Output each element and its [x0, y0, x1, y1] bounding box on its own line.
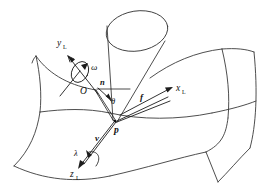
surface-upper-left-tip [32, 56, 36, 63]
label-angle-lambda: λ [73, 148, 78, 158]
label-angle-omega: ω [91, 62, 97, 72]
rotation-arcs [68, 59, 99, 166]
vectors [84, 88, 170, 164]
surface-right-fold [222, 49, 229, 118]
surface-bottom-notch-right [218, 148, 250, 182]
surface-mid-fold [40, 110, 110, 114]
vector-f-line2 [117, 101, 170, 122]
label-point-o: O [80, 86, 87, 96]
surface-top-far-right [222, 49, 254, 52]
point-p-marker [114, 120, 117, 123]
label-vector-f: f [140, 92, 144, 102]
label-axis-z-subscript: L [76, 175, 80, 181]
geometry-diagram: y L ω O n θ f x L p v λ z L [0, 0, 262, 194]
surface-bottom-edge [14, 166, 110, 180]
surface-right-silhouette [250, 52, 256, 148]
label-axis-y: y [56, 38, 62, 48]
label-point-p: p [113, 125, 119, 135]
surface-bottom-notch [206, 152, 218, 182]
label-axis-z: z [69, 169, 74, 179]
surface-left-fold [36, 56, 41, 112]
label-axis-y-subscript: L [63, 44, 67, 50]
surface-mid-fold-far-right [212, 101, 256, 113]
axis-x-arrow-fill [165, 87, 173, 93]
surface-top-left-edge [36, 56, 96, 90]
label-vector-n: n [100, 77, 105, 87]
label-angle-theta: θ [111, 96, 115, 106]
surface-right-fold-lower [206, 118, 228, 152]
surface-bottom-edge-right [110, 152, 206, 176]
axis-z-line [80, 122, 114, 166]
axis-y-extension [60, 71, 80, 96]
surface-left-silhouette [14, 112, 40, 166]
point-markers [114, 120, 117, 123]
figure-root: y L ω O n θ f x L p v λ z L [0, 0, 262, 194]
vector-v-line [84, 122, 116, 164]
label-axis-x: x [175, 83, 181, 93]
label-axis-x-subscript: L [182, 89, 186, 95]
surface-top-right-edge [150, 49, 222, 78]
omega-arrowhead [81, 63, 88, 70]
